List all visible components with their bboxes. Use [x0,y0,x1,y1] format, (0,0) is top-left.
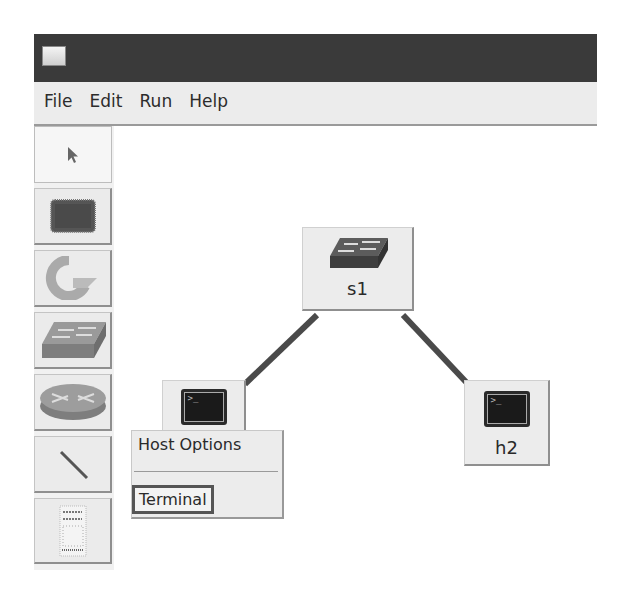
host-terminal-icon [484,391,530,427]
host-tool-button[interactable] [34,188,112,245]
router-icon [38,380,108,424]
select-tool-button[interactable] [34,126,112,183]
link-s1-h1[interactable] [245,315,317,384]
pointer-arrow-icon [65,145,81,165]
controller-tool-button[interactable] [34,250,112,307]
controller-icon [45,256,101,300]
link-s1-h2[interactable] [403,315,466,382]
host-terminal-icon [49,198,97,234]
menu-item-terminal[interactable]: Terminal [132,485,214,514]
link-tool-button[interactable] [34,436,112,493]
menu-separator [134,471,278,472]
host-node-h2[interactable]: h2 [464,380,550,466]
menu-file[interactable]: File [34,82,78,120]
switch-icon [38,318,108,362]
netlink-tool-button[interactable] [34,498,112,564]
menu-bar: File Edit Run Help [34,82,597,126]
switch-node-s1[interactable]: s1 [302,227,414,311]
router-tool-button[interactable] [34,374,112,431]
menu-help[interactable]: Help [183,82,234,120]
node-label: h2 [465,437,548,458]
host-node-h1[interactable] [162,380,246,436]
switch-tool-button[interactable] [34,312,112,369]
link-line-icon [53,444,93,484]
switch-icon [326,234,390,274]
netlink-panel-icon [58,504,88,558]
title-bar [34,34,597,82]
host-terminal-icon [181,389,227,425]
host-options-menu: Host Options Terminal [131,430,284,519]
menu-run[interactable]: Run [134,82,179,120]
node-label: s1 [303,278,412,299]
menu-edit[interactable]: Edit [84,82,129,120]
tool-palette [34,126,114,570]
app-window-icon [42,46,66,66]
menu-title: Host Options [138,435,241,454]
